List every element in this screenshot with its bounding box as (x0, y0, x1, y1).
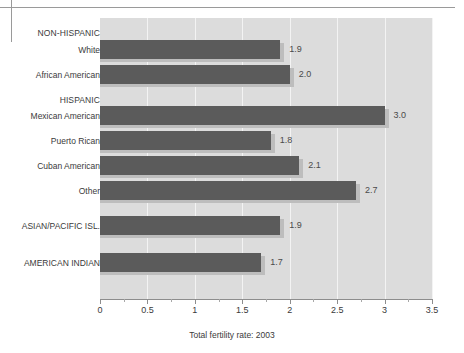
category-label-column: NON-HISPANICWhiteAfrican AmericanHISPANI… (0, 0, 100, 300)
x-tick-label: 1.5 (236, 305, 249, 315)
x-tick-major (147, 299, 148, 304)
bar-value-label: 3.0 (394, 106, 407, 125)
x-tick-major (337, 299, 338, 304)
x-tick-minor (266, 299, 267, 302)
x-tick-major (242, 299, 243, 304)
x-tick-label: 2 (287, 305, 292, 315)
bar[interactable] (100, 156, 299, 175)
x-tick-major (290, 299, 291, 304)
category-label: AMERICAN INDIAN (6, 258, 100, 268)
category-label: Other (6, 186, 100, 196)
bar[interactable] (100, 65, 290, 84)
category-label: African American (6, 70, 100, 80)
category-label: Cuban American (6, 161, 100, 171)
bar[interactable] (100, 216, 280, 235)
group-header-label: NON-HISPANIC (6, 28, 100, 38)
x-tick-label: 3.5 (426, 305, 439, 315)
plot-area: 1.92.03.01.82.12.71.91.7 (100, 18, 432, 299)
x-tick-major (100, 299, 101, 304)
bar-value-label: 1.9 (289, 40, 302, 59)
chart-caption: Total fertility rate: 2003 (0, 330, 464, 340)
bar-value-label: 1.9 (289, 216, 302, 235)
chart-page: 1.92.03.01.82.12.71.91.7 NON-HISPANICWhi… (0, 0, 464, 353)
bar[interactable] (100, 253, 261, 272)
bar-value-label: 1.7 (270, 253, 283, 272)
gridline (385, 18, 386, 299)
category-label: Mexican American (6, 111, 100, 121)
x-tick-label: 2.5 (331, 305, 344, 315)
bar[interactable] (100, 181, 356, 200)
bar-value-label: 2.0 (299, 65, 312, 84)
x-tick-label: 0.5 (141, 305, 154, 315)
bar[interactable] (100, 106, 385, 125)
x-tick-minor (361, 299, 362, 302)
x-tick-minor (219, 299, 220, 302)
bar-value-label: 2.1 (308, 156, 321, 175)
gridline (337, 18, 338, 299)
group-header-label: HISPANIC (6, 95, 100, 105)
x-tick-label: 3 (382, 305, 387, 315)
bar[interactable] (100, 40, 280, 59)
x-tick-minor (124, 299, 125, 302)
x-tick-label: 0 (97, 305, 102, 315)
x-tick-minor (408, 299, 409, 302)
bar[interactable] (100, 131, 271, 150)
x-tick-minor (171, 299, 172, 302)
x-tick-major (432, 299, 433, 304)
gridline (432, 18, 433, 299)
x-tick-major (195, 299, 196, 304)
category-label: White (6, 45, 100, 55)
bar-value-label: 2.7 (365, 181, 378, 200)
x-tick-major (385, 299, 386, 304)
x-tick-minor (313, 299, 314, 302)
category-label: ASIAN/PACIFIC ISL. (6, 221, 100, 231)
category-label: Puerto Rican (6, 136, 100, 146)
bar-value-label: 1.8 (280, 131, 293, 150)
x-tick-label: 1 (192, 305, 197, 315)
